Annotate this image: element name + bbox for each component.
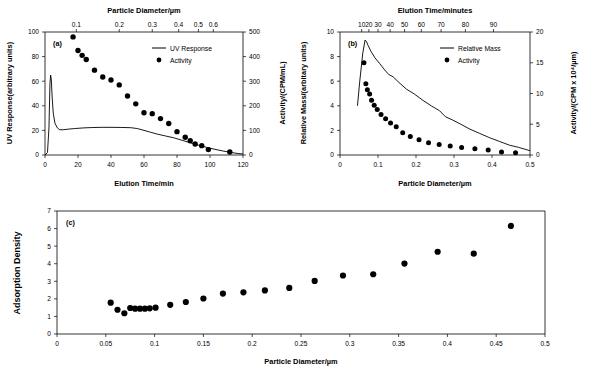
x-tick-label: 0.3	[449, 161, 458, 168]
y-tick-label: 100	[28, 28, 39, 35]
data-point	[188, 138, 193, 143]
data-point	[394, 124, 399, 129]
x2-tick-label: 30	[374, 21, 382, 28]
data-point	[448, 144, 453, 149]
data-point	[183, 299, 189, 305]
x-tick-label: 0	[338, 161, 342, 168]
panel-c-ticks: 00.050.10.150.20.250.30.350.40.450.50123…	[47, 207, 550, 347]
x2-tick-label: 60	[418, 21, 426, 28]
data-point	[108, 300, 114, 306]
data-point	[199, 143, 204, 148]
y2-tick-label: 0	[249, 151, 253, 158]
x-tick-label: 0.1	[150, 340, 159, 347]
data-point	[125, 93, 130, 98]
data-point	[363, 81, 368, 86]
panel-b-x-axis-title: Particle Diameter/µm	[398, 179, 472, 188]
panel-a-legend-label-0: UV Response	[170, 45, 212, 53]
data-point	[365, 87, 370, 92]
x-tick-label: 0.3	[345, 340, 354, 347]
x2-tick-label: 0.2	[115, 21, 124, 28]
x-tick-label: 40	[107, 161, 115, 168]
panel-a-legend-label-1: Activity	[170, 57, 192, 65]
panel-a-top-axis-title: Particle Diameter/µm	[107, 6, 181, 15]
data-point	[471, 251, 477, 257]
y2-tick-label: 20	[536, 28, 544, 35]
data-point	[286, 285, 292, 291]
x-tick-label: 0	[55, 340, 59, 347]
x-tick-label: 0.15	[197, 340, 210, 347]
panel-a-ticks: 0204060801001200204060801000100200300400…	[28, 21, 260, 169]
panel-b-legend-label-1: Activity	[458, 57, 480, 65]
data-point	[183, 135, 188, 140]
x-tick-label: 0.05	[99, 340, 112, 347]
y-tick-label: 3	[47, 278, 51, 285]
y2-tick-label: 200	[249, 102, 260, 109]
data-point	[141, 110, 146, 115]
data-point	[117, 82, 122, 87]
x-tick-label: 0.5	[525, 161, 534, 168]
data-point	[379, 112, 384, 117]
data-point	[370, 271, 376, 277]
y-tick-label: 10	[327, 28, 335, 35]
data-point	[79, 53, 84, 58]
data-point	[206, 147, 211, 152]
x-tick-label: 20	[74, 161, 82, 168]
data-point	[114, 307, 120, 313]
panel-b-data	[357, 40, 530, 155]
x-tick-label: 0.2	[411, 161, 420, 168]
data-point	[75, 48, 80, 53]
panel-c-data	[108, 223, 514, 317]
data-point	[383, 116, 388, 121]
x2-tick-label: 90	[490, 21, 498, 28]
y-tick-label: 6	[330, 78, 334, 85]
panel-a: 0204060801001200204060801000100200300400…	[0, 0, 295, 192]
data-point	[84, 57, 89, 62]
panel-a-y-axis-title: UV Response(arbitrary units)	[5, 41, 14, 144]
panel-c-axes	[57, 211, 545, 334]
x2-tick-label: 20	[365, 21, 373, 28]
x-tick-label: 0.25	[295, 340, 308, 347]
data-point	[147, 305, 153, 311]
x-tick-label: 0.35	[392, 340, 405, 347]
data-point	[70, 34, 75, 39]
data-point	[508, 223, 514, 229]
x2-tick-label: 0.1	[72, 21, 81, 28]
y2-tick-label: 10	[536, 90, 544, 97]
data-point	[400, 130, 405, 135]
data-point	[133, 101, 138, 106]
data-point	[486, 148, 491, 153]
data-point	[121, 310, 127, 316]
data-point	[499, 149, 504, 154]
data-point	[437, 142, 442, 147]
panel-b-svg: 00.10.20.30.40.5024681005101520102030405…	[292, 0, 590, 192]
data-point	[340, 272, 346, 278]
y-tick-label: 0	[47, 330, 51, 337]
data-point	[401, 260, 407, 266]
data-point	[417, 137, 422, 142]
data-point	[200, 295, 206, 301]
data-point	[158, 116, 163, 121]
data-point	[220, 290, 226, 296]
data-point	[408, 134, 413, 139]
y-tick-label: 20	[32, 127, 40, 134]
data-point	[150, 111, 155, 116]
data-point	[100, 74, 105, 79]
x2-tick-label: 40	[386, 21, 394, 28]
y-tick-label: 40	[32, 102, 40, 109]
panel-b-y2-axis-title: Activity/(CPM x 10⁴/µm)	[569, 51, 578, 135]
data-point	[369, 98, 374, 103]
data-point	[426, 140, 431, 145]
panel-a-axes	[45, 32, 243, 155]
data-point	[92, 67, 97, 72]
data-point	[167, 302, 173, 308]
panel-b-y-axis-title: Relative Mass/(arbitary units)	[299, 41, 308, 144]
y-tick-label: 5	[47, 243, 51, 250]
x-tick-label: 60	[140, 161, 148, 168]
figure-container: 0204060801001200204060801000100200300400…	[0, 0, 590, 369]
x2-tick-label: 50	[401, 21, 409, 28]
data-point	[262, 287, 268, 293]
data-point	[435, 249, 441, 255]
data-point	[375, 107, 380, 112]
series-line-0	[357, 40, 530, 151]
x-tick-label: 100	[204, 161, 215, 168]
